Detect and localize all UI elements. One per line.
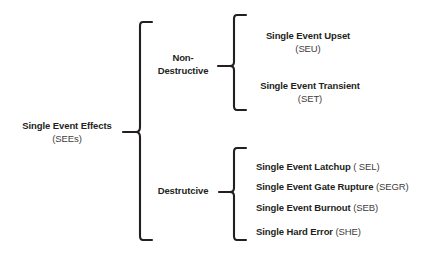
node-single-hard-error: Single Hard Error (SHE) [256, 226, 442, 239]
node-single-event-transient: Single Event Transient (SET) [248, 80, 372, 105]
node-she-label: Single Hard Error [256, 226, 333, 237]
node-sel-label: Single Event Latchup [256, 161, 351, 172]
node-single-event-burnout: Single Event Burnout (SEB) [256, 202, 442, 215]
node-seb-acronym: (SEB) [353, 202, 378, 213]
bracket-non-destructive [230, 15, 246, 110]
node-non-destructive-line1: Non- [150, 52, 216, 65]
node-destructive-line1: Destrutcive [150, 185, 216, 198]
bracket-destructive [230, 148, 246, 240]
node-root-acronym: (SEEs) [12, 133, 122, 146]
node-seu-label: Single Event Upset [250, 30, 366, 43]
node-set-label: Single Event Transient [248, 80, 372, 93]
see-taxonomy-diagram: Single Event Effects (SEEs) Non- Destruc… [0, 0, 443, 264]
node-non-destructive: Non- Destructive [150, 52, 216, 77]
node-segr-acronym: (SEGR) [376, 181, 409, 192]
node-single-event-latchup: Single Event Latchup ( SEL) [256, 161, 442, 174]
node-sel-acronym: ( SEL) [353, 161, 379, 172]
node-set-acronym: (SET) [248, 93, 372, 106]
node-single-event-effects: Single Event Effects (SEEs) [12, 120, 122, 145]
node-single-event-gate-rupture: Single Event Gate Rupture (SEGR) [256, 181, 442, 194]
node-non-destructive-line2: Destructive [150, 65, 216, 78]
node-she-acronym: (SHE) [336, 226, 361, 237]
node-segr-label: Single Event Gate Rupture [256, 181, 373, 192]
node-seb-label: Single Event Burnout [256, 202, 351, 213]
node-root-label: Single Event Effects [12, 120, 122, 133]
node-seu-acronym: (SEU) [250, 43, 366, 56]
node-single-event-upset: Single Event Upset (SEU) [250, 30, 366, 55]
node-destructive: Destrutcive [150, 185, 216, 198]
